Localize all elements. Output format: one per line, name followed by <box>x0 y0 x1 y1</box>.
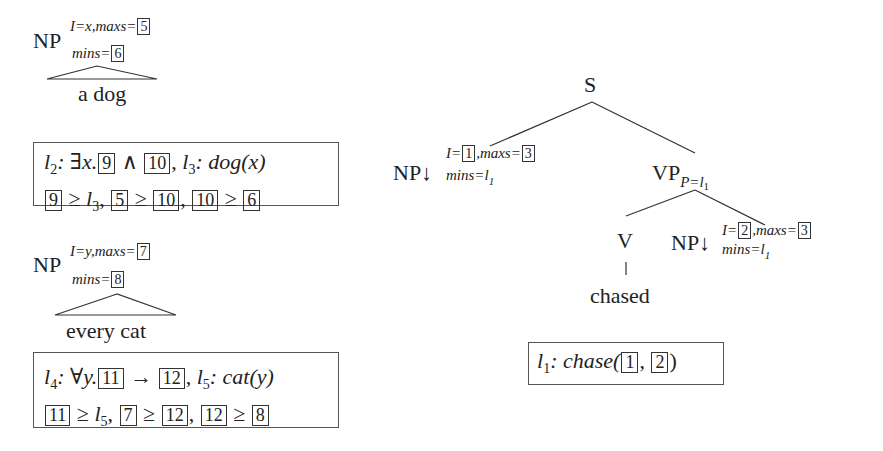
feature-mins: mins= <box>72 271 110 287</box>
edge-vp-np <box>695 190 765 225</box>
index-box: 6 <box>243 190 260 211</box>
formula-box-chased: l1: chase(1, 2) <box>528 342 724 385</box>
index-box: 1 <box>621 352 638 373</box>
yield-every-cat: every cat <box>66 318 146 344</box>
index-box: 11 <box>98 368 123 389</box>
feature-I: I=x, <box>70 18 96 34</box>
index-box: 9 <box>45 190 62 211</box>
formula-box-every-cat: l4: ∀y.11 → 12, l5: cat(y) 11 ≥ l5, 7 ≥ … <box>33 352 339 428</box>
index-box: 11 <box>45 405 70 426</box>
index-box: 12 <box>201 405 227 426</box>
index-box: 5 <box>137 18 150 35</box>
index-box: 3 <box>522 145 535 162</box>
triangle-every-cat <box>55 294 176 315</box>
formula-box-a-dog: l2: ∃x.9 ∧ 10, l3: dog(x) 9 ≥ l3, 5 ≥ 10… <box>33 142 339 206</box>
index-box: 2 <box>651 352 668 373</box>
np-subject-sup-features: I=1,maxs=3 <box>446 145 536 162</box>
edge-vp-v <box>626 190 695 216</box>
np-object-sub-features: mins=l1 <box>722 241 770 261</box>
np-a-dog-sup-features: I=x,maxs=5 <box>70 18 151 35</box>
index-box: 1 <box>462 145 475 162</box>
node-vp: VPP=l1 <box>652 160 709 192</box>
triangle-a-dog <box>47 66 157 79</box>
vp-feature: P=l1 <box>680 174 709 190</box>
np-every-cat-sub-features: mins=8 <box>72 271 125 288</box>
formula-line-2: 9 ≥ l3, 5 ≥ 10, 10 ≥ 6 <box>44 184 328 221</box>
index-box: 2 <box>738 222 751 239</box>
np-object-sup-features: I=2,maxs=3 <box>722 222 812 239</box>
np-every-cat-node: NP <box>33 252 61 278</box>
np-category: NP↓ <box>671 230 710 255</box>
node-np-subject: NP↓ <box>393 160 432 186</box>
np-category: NP↓ <box>393 160 432 185</box>
np-every-cat-sup-features: I=y,maxs=7 <box>70 243 151 260</box>
edge-s-vp <box>592 102 695 153</box>
edge-s-np <box>490 102 592 146</box>
feature-I: I=y, <box>70 243 95 259</box>
formula-line-2: 11 ≥ l5, 7 ≥ 12, 12 ≥ 8 <box>44 399 328 436</box>
index-box: 10 <box>153 190 179 211</box>
formula-line-1: l4: ∀y.11 → 12, l5: cat(y) <box>44 362 328 399</box>
index-box: 12 <box>159 368 185 389</box>
np-a-dog-sub-features: mins=6 <box>72 45 125 62</box>
index-box: 9 <box>98 153 115 174</box>
index-box: 7 <box>120 405 137 426</box>
feature-mins: mins= <box>72 45 110 61</box>
np-subject-sub-features: mins=l1 <box>446 167 494 187</box>
feature-maxs: maxs= <box>95 243 136 259</box>
vp-category: VP <box>652 160 680 185</box>
index-box: 12 <box>162 405 188 426</box>
yield-a-dog: a dog <box>78 81 126 107</box>
node-v: V <box>617 228 633 254</box>
index-box: 10 <box>192 190 218 211</box>
anchor-chased: chased <box>590 283 650 309</box>
feature-maxs: maxs= <box>96 18 137 34</box>
index-box: 6 <box>111 45 124 62</box>
index-box: 8 <box>252 405 269 426</box>
index-box: 3 <box>798 222 811 239</box>
np-category: NP <box>33 252 61 277</box>
node-np-object: NP↓ <box>671 230 710 256</box>
np-a-dog-node: NP <box>33 28 61 54</box>
index-box: 10 <box>144 153 170 174</box>
node-s: S <box>584 72 596 98</box>
np-category: NP <box>33 28 61 53</box>
index-box: 5 <box>111 190 128 211</box>
index-box: 7 <box>137 243 150 260</box>
formula-line-1: l2: ∃x.9 ∧ 10, l3: dog(x) <box>44 147 328 184</box>
index-box: 8 <box>111 271 124 288</box>
